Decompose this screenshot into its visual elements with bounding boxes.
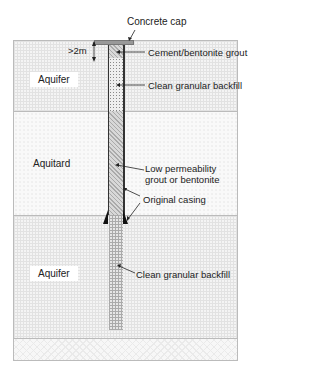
concrete-cap-label: Concrete cap [127, 16, 186, 27]
lower-backfill-label: Clean granular backfill [136, 269, 230, 280]
depth-label: >2m [68, 45, 87, 56]
upper-backfill-label: Clean granular backfill [148, 80, 242, 91]
cement-grout-label: Cement/bentonite grout [148, 47, 247, 58]
original-casing-label: Original casing [143, 194, 206, 205]
casing-shoe-left-icon [103, 210, 108, 224]
low-perm-label-1: Low permeability [145, 163, 216, 174]
low-perm-label-2: grout or bentonite [145, 174, 219, 185]
